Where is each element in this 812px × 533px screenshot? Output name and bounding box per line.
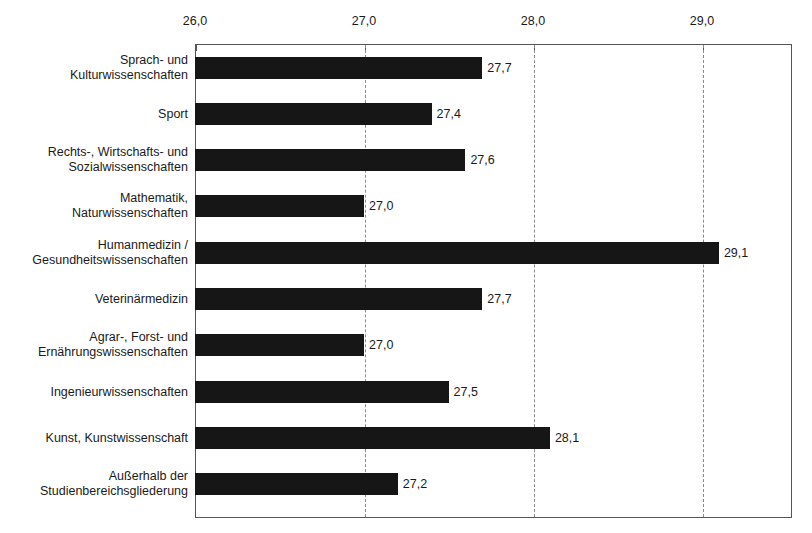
category-axis-labels: Sprach- und KulturwissenschaftenSportRec… <box>0 44 188 518</box>
gridline <box>703 45 704 517</box>
category-label: Kunst, Kunstwissenschaft <box>0 430 188 445</box>
category-label: Veterinärmedizin <box>0 292 188 307</box>
category-label: Agrar-, Forst- und Ernährungswissenschaf… <box>0 330 188 360</box>
gridline <box>534 45 535 517</box>
x-axis-tickmark <box>196 44 197 51</box>
plot-area <box>195 44 792 518</box>
category-label: Mathematik, Naturwissenschaften <box>0 191 188 221</box>
category-label: Sport <box>0 106 188 121</box>
category-label: Sprach- und Kulturwissenschaften <box>0 53 188 83</box>
x-axis-tick-label: 28,0 <box>521 14 545 28</box>
x-axis-tick-labels: 26,027,028,029,0 <box>0 14 812 34</box>
category-label: Außerhalb der Studienbereichsgliederung <box>0 469 188 499</box>
x-axis-tick-label: 29,0 <box>690 14 714 28</box>
gridline <box>365 45 366 517</box>
x-axis-tick-label: 27,0 <box>352 14 376 28</box>
category-label: Ingenieurwissenschaften <box>0 384 188 399</box>
category-label: Rechts-, Wirtschafts- und Sozialwissensc… <box>0 145 188 175</box>
x-axis-tick-label: 26,0 <box>183 14 207 28</box>
category-label: Humanmedizin / Gesundheitswissenschaften <box>0 238 188 268</box>
